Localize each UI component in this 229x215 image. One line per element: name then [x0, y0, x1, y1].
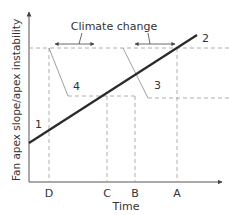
fan-apex-diagram: Climate change 2 3 4 1 D C B A Time Fan … — [0, 0, 229, 215]
climate-change-arrows — [55, 33, 175, 44]
transition-line-4 — [49, 48, 68, 96]
threshold-lines — [29, 48, 229, 182]
line-label-3: 3 — [154, 79, 161, 92]
climate-change-label: Climate change — [71, 20, 158, 33]
line-label-4: 4 — [73, 80, 80, 93]
line-label-1: 1 — [35, 118, 42, 131]
time-marker-b: B — [131, 187, 139, 200]
transition-line-3 — [123, 48, 148, 98]
left-leader-line — [79, 33, 82, 44]
main-trend-line — [29, 35, 197, 143]
time-marker-a: A — [173, 187, 181, 200]
right-leader-line — [148, 33, 150, 44]
y-axis-label: Fan apex slope/apex instability — [10, 19, 22, 181]
transition-lines — [49, 48, 148, 98]
line-label-2: 2 — [202, 32, 209, 45]
time-marker-c: C — [103, 187, 111, 200]
time-marker-d: D — [45, 187, 53, 200]
x-axis-label: Time — [112, 200, 140, 213]
